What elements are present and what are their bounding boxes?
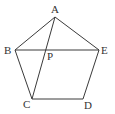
segment-BC — [15, 50, 32, 99]
segment-EA — [55, 17, 99, 50]
pentagon-diagram: A B C D E P — [0, 0, 115, 114]
segment-DE — [83, 50, 99, 99]
vertex-labels: A B C D E P — [4, 3, 108, 111]
segment-AB — [15, 17, 55, 50]
label-E: E — [101, 44, 108, 56]
diagram-canvas: A B C D E P — [0, 0, 115, 114]
label-D: D — [84, 99, 92, 111]
label-A: A — [51, 3, 59, 15]
label-B: B — [4, 44, 11, 56]
label-P: P — [47, 50, 53, 62]
label-C: C — [23, 98, 30, 110]
edges — [15, 17, 99, 99]
